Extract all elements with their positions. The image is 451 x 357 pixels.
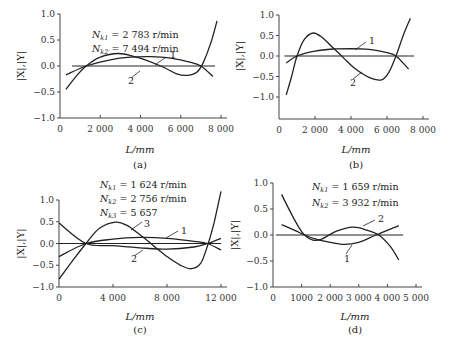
series-label-2: 2	[131, 253, 137, 264]
chart-panel-b: 1.00.50.0−0.5−1.002 0004 0006 0008 000L/…	[234, 10, 436, 170]
x-axis-label: L/mm	[125, 144, 155, 155]
panel-caption: (a)	[133, 159, 147, 170]
x-tick-label: 4 000	[375, 293, 401, 303]
annotation: Nk1 = 1 624 r/min	[99, 179, 187, 192]
x-tick-label: 5 000	[403, 293, 429, 303]
chart-panel-d: 1.00.50.0−0.5−1.0010002 0003 0004 0005 0…	[229, 178, 429, 335]
panel-caption: (d)	[348, 324, 362, 335]
chart-panel-c: 1.00.50.0−0.5−1.004 0008 00012 000L/mm(c…	[15, 179, 237, 335]
series-label-2: 2	[128, 75, 134, 86]
chart-panel-a: 1.00.50.0−0.5−1.002 0004 0006 0008 000L/…	[15, 9, 234, 170]
y-tick-label: 1.0	[254, 178, 269, 188]
series-label-1: 1	[344, 253, 350, 264]
y-tick-label: 1.0	[41, 9, 56, 19]
series-label-2: 2	[378, 213, 384, 224]
x-tick-label: 0	[56, 293, 62, 303]
y-tick-label: −1.0	[252, 92, 274, 102]
series-line-2	[59, 223, 221, 249]
y-tick-label: −0.5	[32, 260, 54, 270]
annotation: Nk1 = 2 783 r/min	[91, 29, 179, 42]
x-tick-label: 8 000	[208, 124, 234, 134]
y-tick-label: 0.0	[254, 230, 269, 240]
series-leader	[131, 222, 142, 230]
x-tick-label: 3 000	[346, 293, 372, 303]
x-tick-label: 0	[276, 125, 282, 135]
y-tick-label: 1.0	[260, 10, 275, 20]
y-tick-label: −1.0	[33, 113, 55, 123]
y-tick-label: 0.5	[40, 217, 55, 227]
series-line-3	[59, 191, 221, 279]
y-tick-label: −0.5	[246, 256, 268, 266]
x-tick-label: 0	[57, 124, 63, 134]
x-tick-label: 4 000	[338, 125, 364, 135]
y-tick-label: 1.0	[40, 195, 55, 205]
series-label-3: 3	[144, 218, 150, 229]
y-axis-label: |X|,|Y|	[15, 51, 27, 81]
x-tick-label: 0	[270, 293, 276, 303]
y-tick-label: 0.0	[260, 51, 275, 61]
x-tick-label: 4 000	[128, 124, 154, 134]
x-axis-label: L/mm	[341, 144, 371, 155]
y-axis-label: |X|,|Y|	[229, 220, 241, 250]
annotation: Nk2 = 7 494 r/min	[91, 43, 179, 56]
y-tick-label: 0.5	[41, 35, 56, 45]
x-tick-label: 12 000	[205, 293, 237, 303]
x-axis-label: L/mm	[125, 311, 155, 322]
series-label-2: 2	[350, 77, 356, 88]
y-tick-label: −1.0	[246, 282, 268, 292]
y-axis-label: |X|,|Y|	[234, 41, 246, 71]
x-tick-label: 6 000	[374, 125, 400, 135]
y-tick-label: 0.0	[41, 61, 56, 71]
x-tick-label: 6 000	[168, 124, 194, 134]
y-tick-label: 0.5	[260, 31, 275, 41]
y-axis-label: |X|,|Y|	[15, 228, 27, 258]
y-tick-label: −1.0	[32, 282, 54, 292]
figure: 1.00.50.0−0.5−1.002 0004 0006 0008 000L/…	[0, 0, 451, 357]
x-tick-label: 2 000	[87, 124, 113, 134]
y-tick-label: 0.0	[40, 239, 55, 249]
series-label-1: 1	[181, 225, 187, 236]
series-leader	[363, 220, 375, 226]
x-tick-label: 2 000	[317, 293, 343, 303]
y-tick-label: −0.5	[33, 87, 55, 97]
panel-caption: (c)	[133, 324, 147, 335]
annotation: Nk1 = 1 659 r/min	[311, 181, 399, 194]
x-axis-label: L/mm	[340, 311, 370, 322]
x-tick-label: 8 000	[154, 293, 180, 303]
series-line-2	[286, 18, 410, 95]
annotation: Nk2 = 2 756 r/min	[99, 193, 187, 206]
x-tick-label: 1000	[290, 293, 313, 303]
x-tick-label: 8 000	[410, 125, 436, 135]
y-tick-label: 0.5	[254, 204, 269, 214]
panel-caption: (b)	[349, 159, 363, 170]
x-tick-label: 4 000	[100, 293, 126, 303]
x-tick-label: 2 000	[302, 125, 328, 135]
series-line-1	[286, 49, 408, 70]
y-tick-label: −0.5	[252, 72, 274, 82]
annotation: Nk2 = 3 932 r/min	[311, 197, 399, 210]
series-leader	[166, 231, 178, 238]
series-label-1: 1	[369, 35, 375, 46]
